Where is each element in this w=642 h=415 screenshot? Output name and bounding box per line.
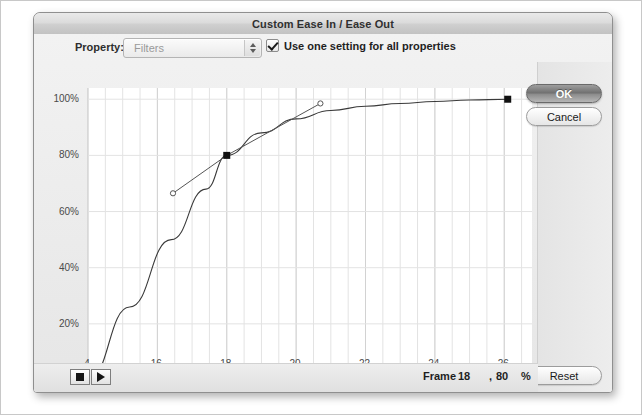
percent-value[interactable]: 80 [496,370,508,382]
ok-button[interactable]: OK [526,84,602,103]
custom-ease-dialog: Custom Ease In / Ease Out Property: Filt… [33,12,613,393]
screenshot-page: Custom Ease In / Ease Out Property: Filt… [0,0,642,415]
dialog-titlebar: Custom Ease In / Ease Out [34,13,612,35]
stepper-arrows-icon[interactable] [244,40,260,56]
play-icon [97,372,105,382]
dialog-title: Custom Ease In / Ease Out [252,18,394,30]
property-select[interactable]: Filters [123,38,262,58]
transport-bar: Frame 18 , 80 % [34,363,538,392]
y-tick-label: 60% [59,206,79,217]
y-tick-label: 80% [59,149,79,160]
button-panel: OK Cancel Reset [537,62,612,392]
frame-label: Frame [423,370,456,382]
property-select-value: Filters [134,42,164,54]
use-one-setting-label: Use one setting for all properties [284,40,456,52]
y-tick-label: 20% [59,318,79,329]
use-one-setting-checkbox[interactable]: Use one setting for all properties [266,39,456,52]
cancel-button[interactable]: Cancel [526,107,602,126]
property-label: Property: [75,41,124,53]
dialog-toolbar: Property: Filters Use one setting for al… [34,34,612,62]
frame-value[interactable]: 18 [458,370,470,382]
dialog-body: Property: Filters Use one setting for al… [34,34,612,392]
readout-comma: , [489,370,492,382]
y-tick-label: 40% [59,262,79,273]
stop-icon [76,373,84,381]
play-button[interactable] [91,369,111,385]
checkbox-icon[interactable] [266,39,279,52]
percent-sign: % [521,370,531,382]
y-tick-label: 100% [53,93,79,104]
curve-svg [88,88,532,380]
ease-graph[interactable]: Tween 20%40%60%80%100% 4161820222426 Fra… [42,64,531,382]
stop-button[interactable] [70,369,90,385]
plot-area[interactable] [87,88,532,381]
